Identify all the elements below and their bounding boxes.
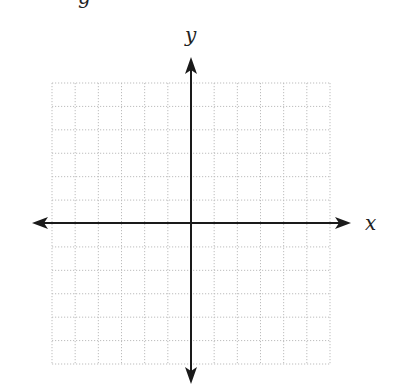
y-axis <box>185 57 197 384</box>
coordinate-plane: g x y <box>0 0 395 384</box>
y-axis-label: y <box>184 23 197 47</box>
x-axis-label: x <box>365 211 376 235</box>
cut-off-heading-glyph: g <box>78 0 91 9</box>
